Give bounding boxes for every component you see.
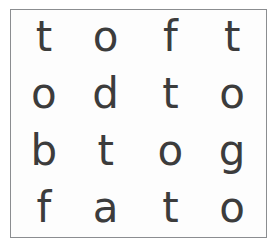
letter-glyph-r4c4: o [219,187,245,229]
letter-cell-r3c4[interactable]: g [202,124,266,181]
letter-cell-r2c4[interactable]: o [202,67,266,124]
letter-glyph-r4c2: a [93,187,119,229]
letter-glyph-r3c2: t [97,130,113,172]
letter-glyph-r3c4: g [219,130,246,172]
letter-cell-r2c3[interactable]: t [139,67,203,124]
letter-cell-r1c4[interactable]: t [202,10,266,67]
letter-cell-r3c3[interactable]: o [139,124,203,181]
letter-glyph-r3c3: o [158,130,184,172]
letter-cell-r1c1[interactable]: t [11,10,75,67]
letter-glyph-r2c3: t [162,73,178,115]
letter-cell-r1c3[interactable]: f [139,10,203,67]
letter-cell-r3c2[interactable]: t [75,124,139,181]
letter-grid: t o f t o d t [11,10,266,237]
letter-glyph-r1c4: t [224,16,240,58]
letter-glyph-r1c3: f [163,16,178,58]
letter-cell-r4c4[interactable]: o [202,180,266,237]
letter-cell-r2c1[interactable]: o [11,67,75,124]
letter-cell-r4c3[interactable]: t [139,180,203,237]
letter-glyph-r2c2: d [92,73,119,115]
letter-glyph-r2c1: o [31,73,57,115]
letter-cell-r2c2[interactable]: d [75,67,139,124]
letter-glyph-r3c1: b [31,130,58,172]
worksheet-canvas: t o f t o d t [0,0,276,248]
letter-glyph-r1c2: o [93,16,119,58]
letter-cell-r4c2[interactable]: a [75,180,139,237]
letter-glyph-r1c1: t [36,16,52,58]
letter-cell-r4c1[interactable]: f [11,180,75,237]
letter-glyph-r4c3: t [162,187,178,229]
letter-grid-panel: t o f t o d t [10,9,267,238]
letter-glyph-r4c1: f [36,187,51,229]
letter-glyph-r2c4: o [219,73,245,115]
letter-cell-r3c1[interactable]: b [11,124,75,181]
letter-cell-r1c2[interactable]: o [75,10,139,67]
